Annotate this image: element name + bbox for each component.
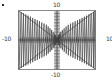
y-axis-max-label: 10 (53, 2, 60, 8)
x-axis-max-label: 10 (106, 36, 112, 42)
plot-figure: 10 -10 -10 10 (0, 0, 112, 81)
y-axis-min-label: -10 (51, 72, 60, 78)
plot-canvas (0, 0, 112, 81)
x-axis-min-label: -10 (2, 36, 11, 42)
